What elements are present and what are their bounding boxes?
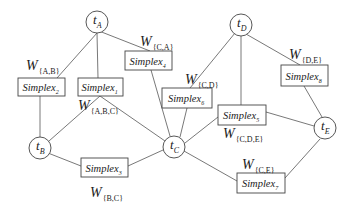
weight-label-w_cd: W{C,D} [185,72,219,90]
simplex-box-3: Simplex3 [81,158,128,177]
node-t-a: tA [86,11,108,33]
node-t-d: tD [230,14,252,36]
weight-label-w_bc: W{B,C} [90,185,123,203]
edge-line [185,117,218,143]
weight-label-w_cde: W{C,D,E} [223,126,264,144]
edge-line [100,96,165,141]
node-t-b: tB [29,137,51,159]
simplex-box-8: Simplex8 [281,65,328,86]
simplex-box-6: Simplex6 [162,88,212,108]
edge-line [304,86,322,117]
simplex-box-1: Simplex1 [78,78,123,96]
edge-line [49,96,100,141]
edge-line [57,33,97,78]
weight-label-w_ab: W{A,B} [26,58,60,76]
edge-line [190,33,235,88]
simplex-box-4: Simplex4 [125,51,172,70]
simplex-network-diagram: Simplex2Simplex1Simplex4Simplex6Simplex5… [0,0,351,211]
edge-line [48,153,81,166]
edge-line [285,139,320,178]
weight-label-w_de: W{D,E} [289,47,322,65]
edge-line [180,108,187,137]
simplex-box-7: Simplex7 [237,173,285,193]
node-t-c: tC [163,136,185,158]
node-t-e: tE [314,117,336,139]
simplex-boxes: Simplex2Simplex1Simplex4Simplex6Simplex5… [18,51,328,193]
edge-line [128,150,163,166]
edge-line [266,112,314,126]
weight-label-w_abc: W{A,B,C} [78,98,119,116]
edge-line [184,151,237,181]
weight-label-w_ce: W{C,E} [242,157,275,175]
edge-line [97,33,98,78]
simplex-box-5: Simplex5 [218,105,266,125]
simplex-box-2: Simplex2 [18,78,65,96]
